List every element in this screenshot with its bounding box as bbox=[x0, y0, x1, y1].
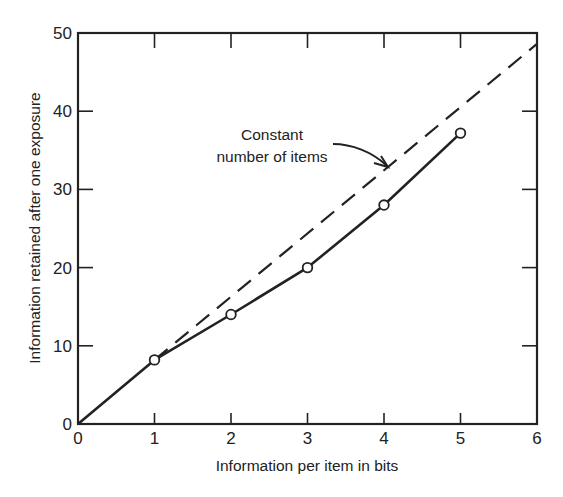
annotation-arrow-icon bbox=[333, 144, 386, 165]
x-tick-label: 4 bbox=[379, 429, 388, 448]
constant-items-dashed-line bbox=[155, 44, 538, 360]
x-tick-label: 0 bbox=[73, 429, 82, 448]
y-axis-title: Information retained after one exposure bbox=[26, 92, 43, 363]
y-tick-label: 20 bbox=[53, 259, 72, 278]
x-tick-label: 1 bbox=[150, 429, 159, 448]
y-tick-label: 40 bbox=[53, 102, 72, 121]
data-point-marker bbox=[456, 128, 466, 138]
observed-line bbox=[78, 133, 461, 424]
y-tick-label: 30 bbox=[53, 180, 72, 199]
y-tick-label: 0 bbox=[63, 415, 72, 434]
y-axis-ticks: 01020304050 bbox=[53, 24, 537, 434]
annotation-line-2: number of items bbox=[216, 148, 327, 165]
data-point-marker bbox=[226, 310, 236, 320]
x-tick-label: 5 bbox=[456, 429, 465, 448]
y-tick-label: 50 bbox=[53, 24, 72, 43]
x-axis-ticks: 0123456 bbox=[73, 33, 541, 448]
x-tick-label: 6 bbox=[532, 429, 541, 448]
data-point-marker bbox=[150, 355, 160, 365]
annotation-line-1: Constant bbox=[241, 126, 304, 143]
data-point-marker bbox=[303, 263, 313, 273]
annotation: Constant number of items bbox=[216, 126, 388, 167]
x-tick-label: 2 bbox=[226, 429, 235, 448]
data-series bbox=[78, 44, 537, 424]
x-axis-title: Information per item in bits bbox=[216, 457, 399, 474]
chart: 0123456 01020304050 Information per item… bbox=[0, 0, 563, 497]
data-point-marker bbox=[379, 200, 389, 210]
y-tick-label: 10 bbox=[53, 337, 72, 356]
x-tick-label: 3 bbox=[303, 429, 312, 448]
